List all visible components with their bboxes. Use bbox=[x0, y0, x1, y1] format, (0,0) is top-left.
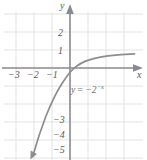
graph-figure: y x −3 −2 −1 2 1 −3 −4 −5 y = −2−x bbox=[0, 0, 147, 160]
y-tick-label-neg5: −5 bbox=[53, 145, 65, 155]
y-tick-label-1: 1 bbox=[58, 46, 63, 56]
y-tick-label-neg4: −4 bbox=[53, 130, 65, 140]
equation-annotation: y = −2−x bbox=[71, 84, 104, 96]
y-tick-label-2: 2 bbox=[58, 28, 63, 38]
y-axis-label: y bbox=[60, 1, 64, 11]
equation-equals: = bbox=[78, 85, 83, 95]
equation-lhs: y bbox=[71, 85, 75, 95]
x-tick-label-neg1: −1 bbox=[46, 70, 58, 80]
y-tick-label-neg3: −3 bbox=[53, 115, 65, 125]
x-tick-label-neg2: −2 bbox=[27, 70, 39, 80]
graph-canvas bbox=[0, 0, 147, 160]
equation-exponent: −x bbox=[97, 83, 104, 90]
y-axis bbox=[66, 4, 74, 160]
equation-base: −2 bbox=[85, 85, 96, 95]
x-axis-label: x bbox=[137, 70, 141, 80]
x-tick-label-neg3: −3 bbox=[8, 70, 20, 80]
y-axis-arrowhead bbox=[66, 4, 74, 14]
